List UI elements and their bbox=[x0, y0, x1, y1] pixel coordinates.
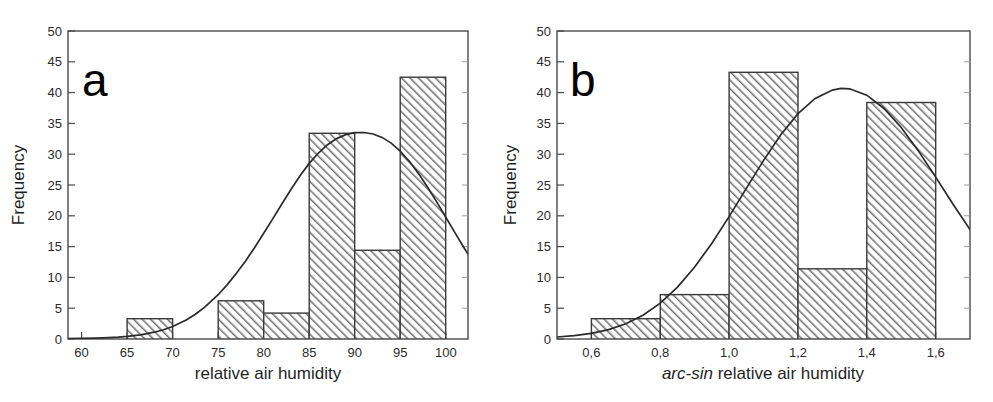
bar-b-1.0-1.2 bbox=[729, 72, 798, 339]
x-tick-label: 1,2 bbox=[789, 345, 807, 360]
x-tick-label: 60 bbox=[74, 345, 88, 360]
bar-b-1.4-1.6 bbox=[867, 103, 936, 340]
x-tick-label: 75 bbox=[211, 345, 225, 360]
y-tick-label: 35 bbox=[537, 116, 551, 131]
x-axis-title-b-rest: relative air humidity bbox=[713, 364, 865, 383]
y-tick-label: 10 bbox=[48, 270, 62, 285]
panel-letter-b: b bbox=[570, 54, 596, 106]
bar-b-0.8-1.0 bbox=[660, 295, 729, 339]
y-axis-title-a: Frequency bbox=[9, 144, 28, 225]
x-tick-label: 100 bbox=[435, 345, 457, 360]
x-tick-label: 1,4 bbox=[858, 345, 876, 360]
y-tick-label: 0 bbox=[544, 332, 551, 347]
y-tick-label: 40 bbox=[48, 85, 62, 100]
y-tick-label: 45 bbox=[48, 54, 62, 69]
x-axis-title-b-italic: arc-sin bbox=[662, 364, 713, 383]
y-tick-label: 40 bbox=[537, 85, 551, 100]
bar-a-80-85 bbox=[264, 313, 310, 339]
y-tick-label: 20 bbox=[48, 208, 62, 223]
x-axis-title-b: arc-sin relative air humidity bbox=[662, 364, 865, 383]
y-tick-label: 50 bbox=[48, 24, 62, 39]
x-tick-label: 0,6 bbox=[582, 345, 600, 360]
bar-a-85-90 bbox=[309, 133, 355, 339]
y-tick-label: 30 bbox=[537, 147, 551, 162]
panel-a-plot: 0 5 10 15 20 25 30 35 40 45 bbox=[0, 0, 496, 402]
y-tick-label: 20 bbox=[537, 208, 551, 223]
panel-a: 0 5 10 15 20 25 30 35 40 45 bbox=[0, 0, 496, 402]
bar-b-1.2-1.4 bbox=[798, 269, 867, 339]
x-tick-label: 1,6 bbox=[927, 345, 945, 360]
x-tick-label: 95 bbox=[393, 345, 407, 360]
y-axis-title-b: Frequency bbox=[501, 144, 520, 225]
y-tick-label: 5 bbox=[544, 301, 551, 316]
y-tick-label: 25 bbox=[48, 178, 62, 193]
panel-b: 0 5 10 15 20 25 30 35 40 45 bbox=[496, 0, 992, 402]
y-tick-label: 35 bbox=[48, 116, 62, 131]
panel-letter-a: a bbox=[82, 54, 108, 106]
panel-b-plot: 0 5 10 15 20 25 30 35 40 45 bbox=[496, 0, 993, 402]
x-tick-label: 80 bbox=[256, 345, 270, 360]
bar-a-75-80 bbox=[218, 301, 264, 339]
x-tick-label: 90 bbox=[347, 345, 361, 360]
y-tick-label: 45 bbox=[537, 54, 551, 69]
figure-two-histograms: 0 5 10 15 20 25 30 35 40 45 bbox=[0, 0, 993, 402]
y-tick-label: 10 bbox=[537, 270, 551, 285]
bar-a-90-95 bbox=[355, 250, 401, 339]
y-tick-label: 5 bbox=[55, 301, 62, 316]
bar-a-95-100 bbox=[400, 77, 446, 339]
y-tick-label: 25 bbox=[537, 178, 551, 193]
x-tick-label: 0,8 bbox=[651, 345, 669, 360]
y-tick-label: 15 bbox=[537, 239, 551, 254]
y-tick-label: 50 bbox=[537, 24, 551, 39]
x-axis-title-a: relative air humidity bbox=[195, 364, 342, 383]
x-tick-label: 85 bbox=[302, 345, 316, 360]
y-tick-label: 30 bbox=[48, 147, 62, 162]
y-tick-label: 0 bbox=[55, 332, 62, 347]
x-tick-label: 65 bbox=[120, 345, 134, 360]
x-tick-label: 1,0 bbox=[720, 345, 738, 360]
y-tick-label: 15 bbox=[48, 239, 62, 254]
bar-b-0.6-0.8 bbox=[591, 319, 660, 339]
x-tick-label: 70 bbox=[165, 345, 179, 360]
